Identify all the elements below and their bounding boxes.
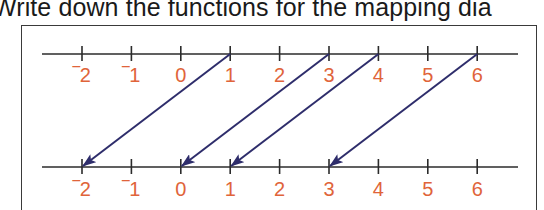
top-tick-label: 0 <box>175 64 186 86</box>
mapping-arrow <box>83 54 230 166</box>
mapping-arrow <box>231 54 378 166</box>
top-tick-label: 4 <box>373 64 384 86</box>
top-tick-label: ‾2 <box>72 64 91 86</box>
top-number-line: ‾2‾10123456 <box>42 46 518 86</box>
top-tick-label: 6 <box>472 64 483 86</box>
bottom-number-line: ‾2‾10123456 <box>42 159 518 200</box>
mapping-arrow <box>182 54 329 166</box>
bottom-tick-label: 4 <box>373 178 384 200</box>
bottom-tick-label: 5 <box>422 178 433 200</box>
top-tick-label: ‾1 <box>122 64 141 86</box>
bottom-labels: ‾2‾10123456 <box>72 178 483 200</box>
mapping-diagram: ‾2‾10123456 ‾2‾10123456 <box>0 0 544 210</box>
bottom-tick-label: 0 <box>175 178 186 200</box>
top-labels: ‾2‾10123456 <box>72 64 483 86</box>
bottom-tick-label: ‾1 <box>122 178 141 200</box>
top-tick-label: 3 <box>323 64 334 86</box>
top-tick-label: 5 <box>422 64 433 86</box>
bottom-tick-label: ‾2 <box>72 178 91 200</box>
bottom-tick-label: 3 <box>323 178 334 200</box>
top-tick-label: 1 <box>225 64 236 86</box>
top-tick-label: 2 <box>274 64 285 86</box>
mapping-arrow <box>330 54 477 166</box>
bottom-tick-label: 6 <box>472 178 483 200</box>
bottom-tick-label: 1 <box>225 178 236 200</box>
bottom-tick-label: 2 <box>274 178 285 200</box>
